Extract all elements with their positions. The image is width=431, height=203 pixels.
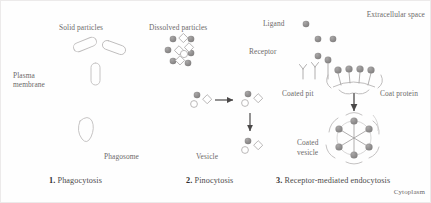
phagosome-label: Phagosome: [104, 153, 139, 162]
coated-vesicle-label-line2: vesicle: [297, 149, 318, 158]
coated-vesicle-group: [326, 113, 379, 165]
ligand-label: Ligand: [263, 20, 285, 29]
step-1-name: Phagocytosis: [58, 176, 102, 185]
step-3-receptor-mediated-endocytosis: 3. Receptor-mediated endocytosis: [276, 177, 390, 186]
step-1-phagocytosis: 1. Phagocytosis: [49, 177, 102, 186]
step-2-pinocytosis: 2. Pinocytosis: [186, 177, 233, 186]
coat-protein-label: Coat protein: [380, 90, 418, 99]
step-2-name: Pinocytosis: [195, 176, 234, 185]
plasma-membrane-label-line2: membrane: [13, 81, 45, 90]
solid-particles-group: [72, 36, 127, 142]
step-2-number: 2.: [186, 176, 192, 185]
vesicle-label: Vesicle: [196, 153, 218, 162]
step-1-number: 1.: [49, 176, 55, 185]
dissolved-particles-label: Dissolved particles: [149, 24, 207, 33]
coated-vesicle-label-line1: Coated: [297, 139, 319, 148]
pinocytosis-membrane-sample: [191, 92, 212, 108]
free-ligands-group: [303, 21, 337, 60]
receptor-label: Receptor: [249, 48, 276, 57]
extracellular-space-label: Extracellular space: [331, 11, 425, 20]
cytoplasm-label: Cytoplasm: [341, 188, 425, 197]
step-3-number: 3.: [276, 176, 282, 185]
coated-pit-group: [327, 65, 383, 94]
coated-pit-label: Coated pit: [282, 90, 314, 99]
solid-particles-label: Solid particles: [59, 24, 103, 33]
bound-ligand-receptor3: [325, 57, 332, 64]
endocytosis-figure: Extracellular space Cytoplasm Plasma mem…: [0, 0, 431, 203]
receptors-group: [300, 63, 329, 80]
dissolved-particles-cluster: [165, 33, 195, 66]
pinocytosis-vesicle-upper: [242, 91, 263, 107]
pinocytosis-vesicle-lower: [242, 138, 263, 154]
step-3-name: Receptor-mediated endocytosis: [285, 176, 391, 185]
